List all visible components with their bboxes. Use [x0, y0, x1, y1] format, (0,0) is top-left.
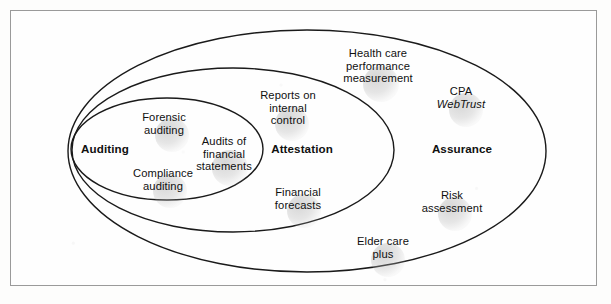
- service-label-reports-on-internal-control: Reports on internal control: [260, 89, 316, 127]
- service-label-audits-of-financial-statements: Audits of financial statements: [196, 135, 252, 173]
- service-label-compliance-auditing: Compliance auditing: [133, 167, 193, 192]
- webtrust-text: WebTrust: [437, 98, 485, 110]
- service-label-financial-forecasts: Financial forecasts: [275, 186, 321, 211]
- set-label-assurance: Assurance: [432, 142, 492, 155]
- service-label-elder-care-plus: Elder care plus: [357, 235, 409, 260]
- figure-page: Auditing Attestation Assurance Forensic …: [0, 0, 611, 304]
- service-label-health-care-performance-measurement: Health care performance measurement: [343, 47, 413, 85]
- set-label-auditing: Auditing: [81, 142, 129, 155]
- service-label-cpa-webtrust: CPAWebTrust: [437, 85, 485, 110]
- service-label-risk-assessment: Risk assessment: [422, 189, 483, 214]
- cpa-text: CPA: [450, 85, 472, 97]
- set-label-attestation: Attestation: [271, 142, 333, 155]
- service-label-forensic-auditing: Forensic auditing: [142, 111, 186, 136]
